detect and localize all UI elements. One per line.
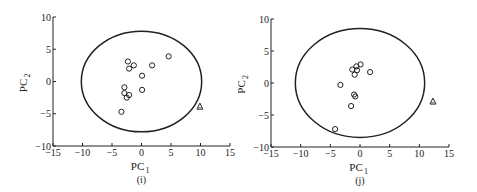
y-axis-label-text: PC — [17, 79, 29, 92]
data-point-circle — [125, 59, 130, 64]
outlier-triangle-marker — [197, 103, 203, 109]
data-point-circle — [122, 85, 127, 90]
data-point-circle — [352, 72, 357, 77]
data-point-circle — [367, 70, 372, 75]
y-tick-label: −5 — [40, 108, 51, 119]
outlier-triangle-marker — [430, 98, 436, 104]
data-point-circle — [131, 63, 136, 68]
pca-scatter-chart-j: −15−10−5051015−10−50510PC1(j)PC2 — [238, 0, 476, 192]
y-tick-label: −10 — [35, 141, 51, 152]
x-tick-label: 0 — [139, 147, 144, 158]
x-tick-label: 15 — [444, 148, 454, 159]
x-axis-label: PC — [131, 160, 144, 172]
y-tick-label: 5 — [264, 46, 269, 57]
y-tick-label: 0 — [46, 76, 51, 87]
data-point-circle — [119, 109, 124, 114]
panel-caption: (i) — [137, 174, 146, 186]
confidence-ellipse — [295, 29, 424, 138]
y-axis-label-subscript: 2 — [241, 75, 250, 79]
x-tick-label: 15 — [225, 147, 235, 158]
data-point-circle — [349, 103, 354, 108]
y-tick-label: −5 — [258, 110, 269, 121]
y-tick-label: 0 — [264, 78, 269, 89]
y-tick-label: 5 — [46, 44, 51, 55]
x-tick-label: 5 — [387, 148, 392, 159]
x-tick-label: 5 — [169, 147, 174, 158]
y-tick-label: 10 — [41, 12, 51, 23]
x-tick-label: −5 — [107, 147, 118, 158]
x-tick-label: −10 — [293, 148, 309, 159]
data-point-circle — [332, 126, 337, 131]
x-axis-label: PC — [349, 161, 362, 173]
x-tick-label: 10 — [196, 147, 206, 158]
y-axis-label: PC2 — [17, 74, 32, 93]
x-tick-label: 10 — [414, 148, 424, 159]
y-axis-label-subscript: 2 — [23, 74, 32, 78]
y-axis-label-text: PC — [238, 80, 247, 93]
x-tick-label: 0 — [358, 148, 363, 159]
x-tick-label: −10 — [75, 147, 91, 158]
y-tick-label: 10 — [259, 14, 269, 25]
scatter-panel-i: −15−10−5051015−10−50510PC1(i)PC2 — [0, 0, 238, 192]
data-point-circle — [150, 63, 155, 68]
pca-scatter-chart-i: −15−10−5051015−10−50510PC1(i)PC2 — [0, 0, 238, 192]
data-point-circle — [166, 54, 171, 59]
data-point-circle — [338, 82, 343, 87]
confidence-ellipse — [81, 31, 201, 132]
y-tick-label: −10 — [253, 142, 269, 153]
data-point-circle — [127, 66, 132, 71]
x-tick-label: −5 — [325, 148, 336, 159]
panel-caption: (j) — [355, 175, 364, 187]
data-point-circle — [139, 73, 144, 78]
y-axis-label: PC2 — [238, 75, 250, 94]
data-point-circle — [139, 87, 144, 92]
scatter-panel-j: −15−10−5051015−10−50510PC1(j)PC2 — [238, 0, 476, 192]
